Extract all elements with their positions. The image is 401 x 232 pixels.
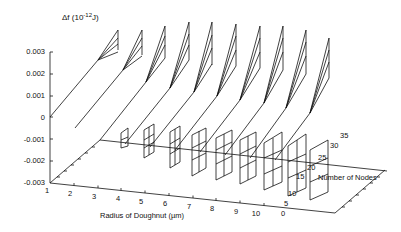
- svg-text:0: 0: [281, 209, 285, 218]
- svg-text:30: 30: [330, 141, 338, 150]
- svg-text:35: 35: [340, 131, 348, 140]
- y-axis-label: Number of Nodes: [318, 173, 377, 182]
- svg-text:20: 20: [307, 163, 315, 172]
- svg-text:-0.002: -0.002: [24, 156, 45, 165]
- svg-text:9: 9: [234, 207, 238, 216]
- svg-text:0.002: 0.002: [26, 69, 45, 78]
- svg-text:3: 3: [92, 192, 96, 201]
- svg-text:0.001: 0.001: [26, 91, 45, 100]
- svg-text:5: 5: [139, 197, 143, 206]
- svg-text:2: 2: [68, 189, 72, 198]
- svg-text:-0.001: -0.001: [24, 135, 45, 144]
- svg-text:4: 4: [116, 194, 120, 203]
- svg-text:7: 7: [187, 202, 191, 211]
- chart-svg: Δf (10-12J) 0.003 0.002 0.001 0 -0.001 -…: [0, 0, 401, 232]
- svg-text:25: 25: [318, 153, 326, 162]
- svg-text:10: 10: [252, 209, 260, 218]
- svg-text:5: 5: [284, 199, 288, 208]
- x-axis-label: Radius of Doughnut (µm): [100, 211, 184, 220]
- svg-text:1: 1: [45, 186, 49, 195]
- positive-fans: [50, 22, 329, 160]
- chart-3d: Δf (10-12J) 0.003 0.002 0.001 0 -0.001 -…: [0, 0, 401, 232]
- svg-text:0.003: 0.003: [26, 47, 45, 56]
- z-tick-labels: 0.003 0.002 0.001 0 -0.001 -0.002 -0.003: [24, 47, 45, 187]
- svg-text:10: 10: [288, 189, 296, 198]
- svg-text:15: 15: [296, 172, 304, 181]
- svg-text:8: 8: [210, 204, 214, 213]
- svg-text:-0.003: -0.003: [24, 178, 45, 187]
- svg-text:0: 0: [41, 113, 45, 122]
- svg-text:6: 6: [163, 199, 167, 208]
- z-axis-label: Δf (10-12J): [62, 12, 99, 22]
- negative-fans: [121, 124, 328, 200]
